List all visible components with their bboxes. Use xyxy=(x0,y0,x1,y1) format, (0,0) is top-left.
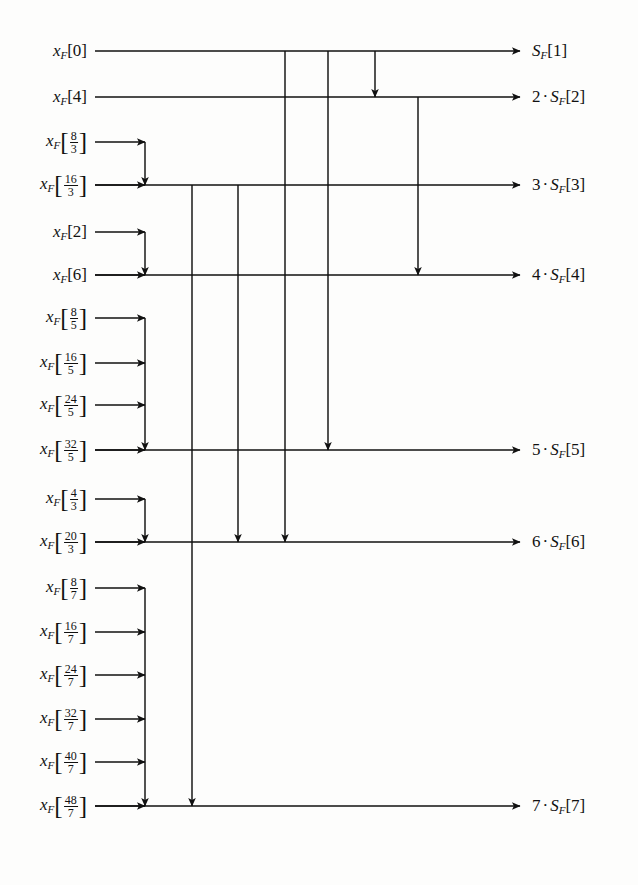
input-label-in-8-7: xF[87] xyxy=(46,574,87,602)
fraction-numerator: 24 xyxy=(64,663,78,676)
input-variable: xF xyxy=(53,41,67,60)
input-index: [0] xyxy=(67,41,87,60)
input-variable: xF xyxy=(40,174,54,193)
fraction-denominator: 7 xyxy=(64,633,78,645)
input-bracket-close: ] xyxy=(79,792,87,819)
output-coefficient: 7 xyxy=(532,796,541,815)
fraction: 487 xyxy=(64,794,78,819)
input-bracket-open: [ xyxy=(54,436,62,463)
input-bracket-close: ] xyxy=(79,391,87,418)
fraction-denominator: 5 xyxy=(64,406,78,418)
fraction-numerator: 48 xyxy=(64,794,78,807)
input-bracket-close: ] xyxy=(79,528,87,555)
fraction-numerator: 32 xyxy=(64,438,78,451)
input-variable: xF xyxy=(46,131,60,150)
fraction-numerator: 8 xyxy=(70,576,78,589)
diagram-canvas: xF[0]xF[4]xF[83]xF[163]xF[2]xF[6]xF[85]x… xyxy=(0,0,638,885)
output-variable: SF xyxy=(550,796,565,815)
fraction-denominator: 7 xyxy=(64,676,78,688)
fraction-denominator: 5 xyxy=(70,319,78,331)
fraction-numerator: 40 xyxy=(64,750,78,763)
fraction: 167 xyxy=(64,620,78,645)
input-variable: xF xyxy=(40,664,54,683)
input-variable: xF xyxy=(46,488,60,507)
input-bracket-open: [ xyxy=(54,171,62,198)
fraction: 87 xyxy=(70,576,78,601)
fraction-numerator: 4 xyxy=(70,487,78,500)
fraction-numerator: 8 xyxy=(70,306,78,319)
fraction-denominator: 7 xyxy=(64,720,78,732)
output-coefficient: 5 xyxy=(532,440,541,459)
multiplication-dot: · xyxy=(541,265,551,284)
fraction-numerator: 8 xyxy=(70,130,78,143)
input-bracket-close: ] xyxy=(79,705,87,732)
input-label-in-40-7: xF[407] xyxy=(40,748,87,776)
output-label-out-7: 7·SF[7] xyxy=(532,796,585,816)
input-bracket-open: [ xyxy=(54,391,62,418)
fraction-numerator: 20 xyxy=(64,530,78,543)
input-index: [4] xyxy=(67,87,87,106)
input-bracket-open: [ xyxy=(60,128,68,155)
input-bracket-open: [ xyxy=(60,485,68,512)
fraction: 165 xyxy=(64,351,78,376)
input-label-in-16-5: xF[165] xyxy=(40,349,87,377)
output-variable: SF xyxy=(550,532,565,551)
fraction: 247 xyxy=(64,663,78,688)
input-bracket-open: [ xyxy=(54,618,62,645)
output-coefficient: 4 xyxy=(532,265,541,284)
fraction-denominator: 7 xyxy=(64,763,78,775)
input-bracket-open: [ xyxy=(60,574,68,601)
input-bracket-close: ] xyxy=(79,171,87,198)
input-label-in-6: xF[6] xyxy=(53,265,87,285)
input-bracket-open: [ xyxy=(60,304,68,331)
fraction-denominator: 5 xyxy=(64,451,78,463)
input-label-in-16-7: xF[167] xyxy=(40,618,87,646)
fraction: 163 xyxy=(64,173,78,198)
output-index: [4] xyxy=(565,265,585,284)
fraction: 43 xyxy=(70,487,78,512)
output-label-out-1: SF[1] xyxy=(532,41,567,61)
output-label-out-4: 4·SF[4] xyxy=(532,265,585,285)
output-label-out-6: 6·SF[6] xyxy=(532,532,585,552)
fraction-numerator: 24 xyxy=(64,393,78,406)
input-label-in-24-7: xF[247] xyxy=(40,661,87,689)
input-variable: xF xyxy=(40,394,54,413)
output-label-out-3: 3·SF[3] xyxy=(532,175,585,195)
input-bracket-close: ] xyxy=(79,661,87,688)
input-bracket-open: [ xyxy=(54,792,62,819)
input-label-in-16-3: xF[163] xyxy=(40,171,87,199)
input-bracket-open: [ xyxy=(54,661,62,688)
input-variable: xF xyxy=(40,751,54,770)
output-variable: SF xyxy=(532,41,547,60)
input-label-in-20-3: xF[203] xyxy=(40,528,87,556)
fraction: 83 xyxy=(70,130,78,155)
input-label-in-2: xF[2] xyxy=(53,222,87,242)
output-index: [1] xyxy=(547,41,567,60)
fraction: 327 xyxy=(64,707,78,732)
output-variable: SF xyxy=(550,440,565,459)
fraction-numerator: 16 xyxy=(64,173,78,186)
input-bracket-close: ] xyxy=(79,485,87,512)
input-variable: xF xyxy=(53,265,67,284)
input-bracket-open: [ xyxy=(54,705,62,732)
input-variable: xF xyxy=(40,795,54,814)
input-label-in-0: xF[0] xyxy=(53,41,87,61)
input-label-in-32-5: xF[325] xyxy=(40,436,87,464)
input-variable: xF xyxy=(46,307,60,326)
input-variable: xF xyxy=(40,531,54,550)
input-bracket-close: ] xyxy=(79,574,87,601)
fraction-denominator: 3 xyxy=(64,543,78,555)
input-bracket-close: ] xyxy=(79,436,87,463)
output-label-out-2: 2·SF[2] xyxy=(532,87,585,107)
multiplication-dot: · xyxy=(541,440,551,459)
input-bracket-close: ] xyxy=(79,618,87,645)
fraction: 85 xyxy=(70,306,78,331)
input-bracket-close: ] xyxy=(79,128,87,155)
input-variable: xF xyxy=(53,222,67,241)
input-bracket-open: [ xyxy=(54,748,62,775)
output-index: [7] xyxy=(565,796,585,815)
input-label-in-32-7: xF[327] xyxy=(40,705,87,733)
output-variable: SF xyxy=(550,265,565,284)
output-index: [3] xyxy=(565,175,585,194)
output-coefficient: 6 xyxy=(532,532,541,551)
